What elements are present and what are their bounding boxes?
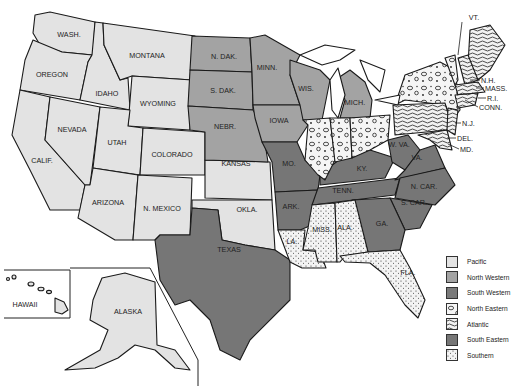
label-utah: UTAH <box>107 138 126 147</box>
label-alaska: ALASKA <box>114 307 142 316</box>
label-s-dak: S. DAK. <box>210 86 236 95</box>
label-wash: WASH. <box>57 30 80 39</box>
label-tenn: TENN. <box>332 186 354 195</box>
label-mo: MO. <box>282 159 296 168</box>
swatch-atlantic <box>446 318 458 330</box>
label-conn: CONN. <box>479 103 502 112</box>
label-n-car: N. CAR. <box>411 182 437 191</box>
label-nebr: NEBR. <box>214 122 236 131</box>
label-va: VA. <box>411 153 422 162</box>
legend-item-south-eastern: South Eastern <box>446 332 526 348</box>
swatch-south-western <box>446 287 458 299</box>
label-ri: R.I. <box>487 94 498 103</box>
label-kansas: KANSAS <box>221 159 250 168</box>
swatch-north-eastern <box>446 303 458 315</box>
label-colorado: COLORADO <box>151 150 193 159</box>
label-n-mexico: N. MEXICO <box>143 204 181 213</box>
label-fla: FLA. <box>400 268 415 277</box>
swatch-north-western <box>446 271 458 283</box>
label-nevada: NEVADA <box>57 125 86 134</box>
label-oregon: OREGON <box>36 70 68 79</box>
label-s-car: S. CAR. <box>401 198 427 207</box>
legend-item-pacific: Pacific <box>446 254 526 270</box>
us-regions-map: WASH. OREGON CALIF. IDAHO NEVADA MONTANA… <box>0 0 527 386</box>
legend-item-north-western: North Western <box>446 270 526 286</box>
legend: Pacific North Western South Western Nort… <box>446 254 526 363</box>
swatch-south-eastern <box>446 334 458 346</box>
label-wis: WIS. <box>298 84 314 93</box>
label-ky: KY. <box>357 164 368 173</box>
swatch-southern <box>446 349 458 361</box>
label-la: LA. <box>287 237 298 246</box>
label-nj: N.J. <box>462 119 475 128</box>
label-okla: OKLA. <box>236 205 257 214</box>
label-wyoming: WYOMING <box>140 99 176 108</box>
label-w-va: W. VA. <box>388 140 409 149</box>
state-fla <box>340 250 425 318</box>
label-ala: ALA. <box>337 223 353 232</box>
state-nj <box>447 108 458 135</box>
legend-item-southern: Southern <box>446 348 526 364</box>
label-arizona: ARIZONA <box>92 198 124 207</box>
legend-item-north-eastern: North Eastern <box>446 301 526 317</box>
swatch-pacific <box>446 256 458 268</box>
label-del: DEL. <box>457 134 473 143</box>
label-ark: ARK. <box>283 202 300 211</box>
label-mich: MICH. <box>345 98 365 107</box>
state-pa <box>393 103 450 135</box>
label-montana: MONTANA <box>129 51 165 60</box>
label-idaho: IDAHO <box>96 89 119 98</box>
label-miss: MISS. <box>312 225 332 234</box>
legend-item-atlantic: Atlantic <box>446 316 526 332</box>
label-iowa: IOWA <box>270 116 289 125</box>
legend-item-south-western: South Western <box>446 285 526 301</box>
label-texas: TEXAS <box>217 245 241 254</box>
label-md: MD. <box>460 145 473 154</box>
label-ga: GA. <box>376 219 388 228</box>
label-vt: VT. <box>469 13 479 22</box>
label-mass: MASS. <box>485 84 507 93</box>
label-minn: MINN. <box>257 63 277 72</box>
label-calif: CALIF. <box>31 156 53 165</box>
label-hawaii: HAWAII <box>12 300 37 309</box>
label-n-dak: N. DAK. <box>211 52 237 61</box>
